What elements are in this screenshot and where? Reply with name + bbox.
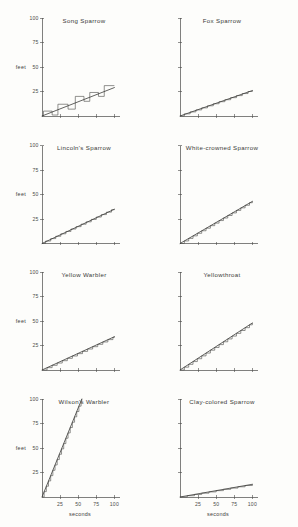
panel-title: Yellow Warbler: [61, 271, 106, 278]
x-axis-tick-label: 75: [93, 501, 99, 507]
x-axis-tick-label: 50: [213, 501, 219, 507]
y-axis-tick-label: 25: [32, 88, 38, 94]
figure-container: 100755025feetSong SparrowFox Sparrow1007…: [0, 0, 298, 527]
panel-title: Lincoln's Sparrow: [57, 144, 111, 151]
multi-panel-chart: 100755025feetSong SparrowFox Sparrow1007…: [0, 0, 298, 527]
regression-line-series: [42, 209, 114, 243]
panel-yellow-warbler: 100755025feetYellow Warbler: [16, 269, 120, 372]
y-axis-tick-label: 25: [32, 216, 38, 222]
panel-clay-colored-sparrow: 255075100secondsClay-colored Sparrow: [178, 398, 258, 518]
x-axis-tick-label: 25: [195, 501, 201, 507]
x-axis-tick-label: 50: [75, 501, 81, 507]
panel-title: White-crowned Sparrow: [186, 144, 259, 151]
regression-line-series: [180, 201, 252, 243]
panel-wilson-s-warbler: 100755025255075100feetsecondsWilson's Wa…: [16, 396, 120, 517]
x-axis-label: seconds: [207, 511, 229, 517]
y-axis-tick-label: 75: [32, 167, 38, 173]
panel-song-sparrow: 100755025feetSong Sparrow: [16, 15, 120, 118]
regression-line-series: [42, 337, 114, 370]
y-axis-tick-label: 25: [32, 469, 38, 475]
y-axis-label: feet: [16, 318, 26, 324]
y-axis-tick-label: 25: [32, 342, 38, 348]
panel-title: Song Sparrow: [63, 17, 106, 24]
panel-title: Wilson's Warbler: [59, 398, 110, 405]
y-axis-tick-label: 50: [32, 191, 38, 197]
x-axis-tick-label: 100: [110, 501, 119, 507]
y-axis-tick-label: 75: [32, 420, 38, 426]
y-axis-tick-label: 75: [32, 39, 38, 45]
panel-yellowthroat: Yellowthroat: [178, 271, 258, 372]
y-axis-tick-label: 100: [29, 142, 38, 148]
panel-lincoln-s-sparrow: 100755025feetLincoln's Sparrow: [16, 142, 120, 245]
x-axis-tick-label: 75: [231, 501, 237, 507]
panel-fox-sparrow: Fox Sparrow: [178, 17, 258, 118]
y-axis-tick-label: 50: [32, 64, 38, 70]
regression-line-series: [180, 323, 252, 370]
y-axis-tick-label: 50: [32, 445, 38, 451]
y-axis-tick-label: 75: [32, 293, 38, 299]
x-axis-label: seconds: [69, 511, 91, 517]
panel-title: Clay-colored Sparrow: [189, 398, 255, 405]
panel-white-crowned-sparrow: White-crowned Sparrow: [178, 144, 258, 245]
y-axis-tick-label: 100: [29, 396, 38, 402]
x-axis-tick-label: 25: [57, 501, 63, 507]
y-axis-tick-label: 50: [32, 318, 38, 324]
y-axis-tick-label: 100: [29, 269, 38, 275]
y-axis-label: feet: [16, 64, 26, 70]
y-axis-label: feet: [16, 191, 26, 197]
regression-line-series: [42, 88, 114, 116]
regression-line-series: [180, 484, 252, 497]
x-axis-tick-label: 100: [248, 501, 257, 507]
regression-line-series: [42, 399, 82, 497]
panel-title: Yellowthroat: [203, 271, 240, 278]
y-axis-label: feet: [16, 445, 26, 451]
y-axis-tick-label: 100: [29, 15, 38, 21]
panel-title: Fox Sparrow: [203, 17, 242, 24]
regression-line-series: [180, 91, 252, 116]
